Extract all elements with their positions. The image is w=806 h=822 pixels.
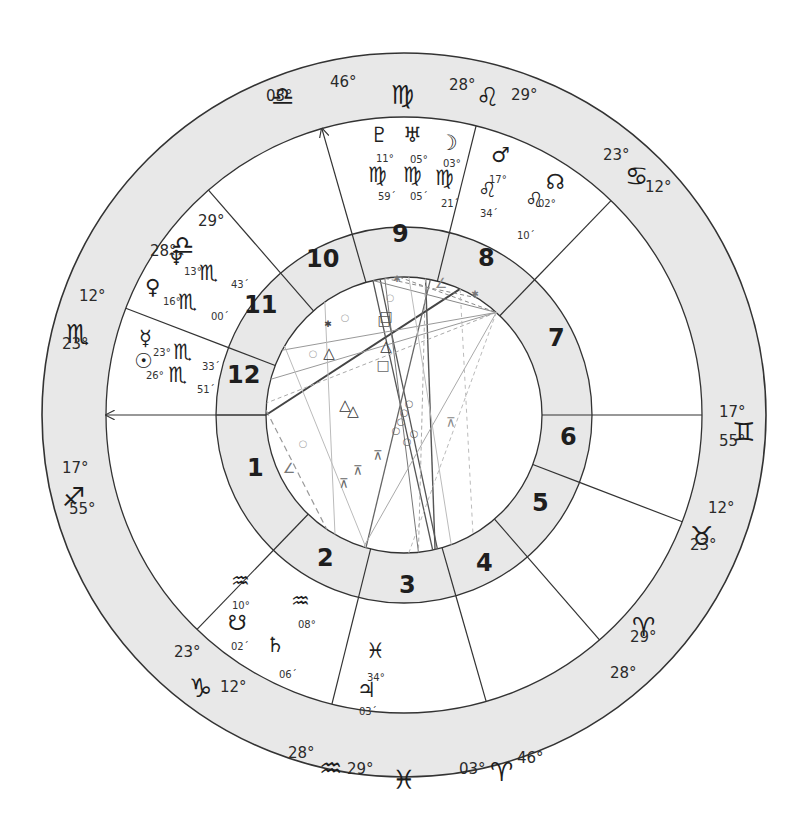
cusp-minute: 12° <box>220 680 247 695</box>
trine-symbol: △ <box>380 337 392 355</box>
mars-sign-glyph: ♌ <box>478 180 497 201</box>
house-number-10: 10 <box>306 247 339 271</box>
cusp-minute: 46° <box>330 75 357 90</box>
cusp-degree: 17° <box>62 461 89 476</box>
house-number-1: 1 <box>247 456 264 480</box>
venus-glyph: ♀ <box>145 277 160 298</box>
sign-glyph-aries: ♈ <box>490 759 513 785</box>
uranus-sign: ♍ <box>403 165 422 186</box>
neptune-glyph: ♆ <box>167 248 186 269</box>
chiron-degree: 10° <box>232 601 250 611</box>
quincunx-symbol: ○ <box>309 348 318 359</box>
pluto-glyph: ♇ <box>370 125 389 146</box>
cusp-minute: 55° <box>69 502 96 517</box>
uranus-minute: 05´ <box>410 192 428 202</box>
sign-glyph-leo: ♌ <box>476 84 499 110</box>
semi-sextile-symbol: ∠ <box>283 460 296 476</box>
cusp-degree: 17° <box>719 405 746 420</box>
moon-sign: ♍ <box>435 168 454 189</box>
cusp-degree: 23° <box>174 645 201 660</box>
mercury-minute: 33´ <box>202 362 220 372</box>
semi-square-symbol: ⊼ <box>339 476 349 491</box>
cusp-degree: 28° <box>610 666 637 681</box>
house-number-4: 4 <box>476 551 493 575</box>
jupiter-glyph: ♃ <box>357 680 376 701</box>
south-node-minute: 02´ <box>231 642 249 652</box>
venus-minute: 00´ <box>211 312 229 322</box>
house-number-3: 3 <box>399 573 416 597</box>
cusp-minute: 29° <box>347 762 374 777</box>
cusp-degree: 12° <box>79 289 106 304</box>
sun-sign: ♏ <box>168 365 187 386</box>
moon-minute: 21´ <box>441 199 459 209</box>
moon-glyph: ☽ <box>439 133 458 154</box>
house-number-2: 2 <box>317 546 334 570</box>
uranus-glyph: ♅ <box>403 125 422 146</box>
trine-symbol: △ <box>347 402 359 420</box>
jupiter-minute: 03´ <box>359 707 377 717</box>
quincunx-symbol: ○ <box>386 292 395 303</box>
semi-square-symbol: ⊼ <box>446 415 456 430</box>
sign-glyph-aquarius: ♒ <box>319 755 342 781</box>
neptune-minute: 43´ <box>231 280 249 290</box>
sextile-symbol: ✱ <box>324 319 332 329</box>
trine-symbol: △ <box>323 344 335 362</box>
square-symbol: □ <box>376 357 389 373</box>
node-sign-glyph: ♌ <box>525 190 544 211</box>
cusp-degree: 03° <box>266 89 293 104</box>
cusp-degree: 23° <box>603 148 630 163</box>
conjunction-symbol: ○ <box>403 436 412 447</box>
node-minute: 10´ <box>517 231 535 241</box>
cusp-minute: 46° <box>517 751 544 766</box>
conjunction-symbol: ○ <box>392 425 401 436</box>
sign-glyph-capricorn: ♑ <box>189 675 212 701</box>
house-number-8: 8 <box>478 246 495 270</box>
pluto-minute: 59´ <box>378 192 396 202</box>
sun-glyph: ☉ <box>134 351 153 372</box>
venus-sign: ♏ <box>178 292 197 313</box>
mercury-degree: 23° <box>153 348 171 358</box>
cusp-degree: 29° <box>198 214 225 229</box>
aquarius2-degree: 08° <box>298 620 316 630</box>
house-number-6: 6 <box>560 425 577 449</box>
cusp-minute: 23° <box>62 337 89 352</box>
house-number-5: 5 <box>532 491 549 515</box>
sign-glyph-virgo: ♍ <box>391 82 414 108</box>
quincunx-symbol: ○ <box>299 438 308 449</box>
saturn-glyph: ♄ <box>266 635 285 656</box>
sextile-symbol: ✱ <box>471 289 479 299</box>
cusp-minute: 12° <box>645 180 672 195</box>
cusp-minute: 55° <box>719 434 746 449</box>
house-number-11: 11 <box>244 293 277 317</box>
north-node-glyph: ☊ <box>546 172 565 193</box>
pisces-glyph: ♓ <box>366 641 385 662</box>
cusp-degree: 12° <box>708 501 735 516</box>
sun-minute: 51´ <box>197 385 215 395</box>
sign-glyph-pisces: ♓ <box>392 767 415 793</box>
cusp-degree: 28° <box>288 746 315 761</box>
chiron-glyph: ♒ <box>231 571 250 592</box>
house-number-9: 9 <box>392 222 409 246</box>
mars-glyph: ♂ <box>491 145 510 166</box>
square-symbol: □ <box>379 308 392 324</box>
mercury-glyph: ☿ <box>139 328 152 349</box>
sun-degree: 26° <box>146 371 164 381</box>
mars-minute: 34´ <box>480 209 498 219</box>
cusp-minute: 29° <box>511 88 538 103</box>
semi-square-symbol: ⊼ <box>353 463 363 478</box>
sextile-symbol: ✱ <box>393 274 401 284</box>
house-number-7: 7 <box>548 326 565 350</box>
south-node-glyph: ☋ <box>228 613 247 634</box>
cusp-degree: 03° <box>459 762 486 777</box>
cusp-degree: 28° <box>449 78 476 93</box>
quincunx-symbol: ○ <box>341 312 350 323</box>
cusp-minute: 23° <box>690 538 717 553</box>
neptune-sign: ♏ <box>199 263 218 284</box>
cusp-minute: 29° <box>630 630 657 645</box>
pluto-sign: ♍ <box>368 165 387 186</box>
mercury-sign: ♏ <box>173 342 192 363</box>
house-number-12: 12 <box>227 363 260 387</box>
aquarius2-glyph: ♒ <box>291 591 310 612</box>
saturn-minute: 06´ <box>279 670 297 680</box>
semi-square-symbol: ⊼ <box>373 448 383 463</box>
